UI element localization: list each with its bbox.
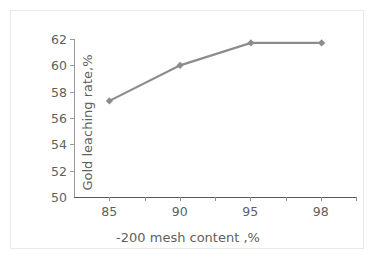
x-axis-tick-label: 95 <box>242 204 258 219</box>
data-point-marker <box>177 62 184 69</box>
y-axis-title-label: Gold leaching rate,% <box>80 54 95 190</box>
data-point-marker <box>247 39 254 46</box>
data-point-marker <box>318 39 325 46</box>
x-axis-tick-label: 85 <box>101 204 117 219</box>
x-axis-title: -200 mesh content ,% <box>11 230 365 245</box>
chart-frame: 62 60 58 56 54 52 50 85 90 95 98 -200 me… <box>10 10 364 249</box>
x-axis-tick-label: 98 <box>313 204 329 219</box>
x-axis-tick-label: 90 <box>172 204 188 219</box>
y-axis-title: Gold leaching rate,% <box>19 48 155 196</box>
y-axis-tick-label: 62 <box>51 32 67 47</box>
